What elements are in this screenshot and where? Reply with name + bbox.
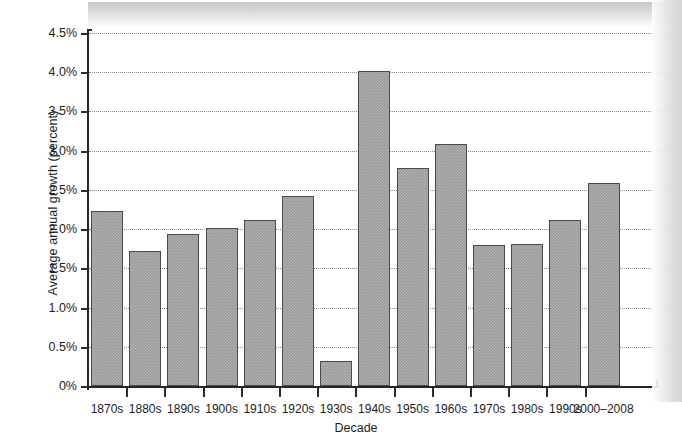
x-axis-tick-label: 1920s	[282, 402, 315, 416]
bar	[511, 244, 543, 386]
bar	[473, 245, 505, 386]
x-axis-tick	[432, 388, 434, 397]
x-axis-tick-label: 2000–2008	[574, 402, 634, 416]
y-axis-tick-label: 0.5%	[49, 340, 78, 354]
bar	[397, 168, 429, 386]
x-axis-tick	[126, 388, 128, 397]
x-axis-tick-label: 1870s	[91, 402, 124, 416]
y-axis-tick-label: 2.0%	[49, 222, 78, 236]
y-axis-tick-label: 4.5%	[49, 26, 78, 40]
x-axis-tick	[355, 388, 357, 397]
x-axis-tick-label: 1900s	[205, 402, 238, 416]
x-axis-tick	[164, 388, 166, 397]
bar	[358, 71, 390, 386]
scan-shadow-right	[652, 0, 682, 402]
bar-series	[87, 33, 655, 386]
y-axis-tick	[81, 386, 87, 388]
bar	[588, 183, 620, 386]
x-axis-tick	[203, 388, 205, 397]
x-axis-tick-label: 1970s	[473, 402, 506, 416]
bar	[129, 251, 161, 386]
x-axis-tick	[508, 388, 510, 397]
bar	[282, 196, 314, 386]
x-axis-tick-label: 1980s	[511, 402, 544, 416]
chart-figure: Average annual growth (percent) 0%0.5%1.…	[0, 0, 682, 446]
x-axis-tick	[241, 388, 243, 397]
bar	[206, 228, 238, 386]
x-axis-tick-label: 1880s	[129, 402, 162, 416]
y-axis-top-cap	[87, 29, 92, 31]
x-axis-tick-label: 1890s	[167, 402, 200, 416]
x-axis-tick-label: 1940s	[358, 402, 391, 416]
bar	[167, 234, 199, 386]
x-axis-tick	[317, 388, 319, 397]
x-axis-tick-label: 1960s	[434, 402, 467, 416]
y-axis-tick-label: 1.0%	[49, 301, 78, 315]
x-axis-right-cap	[656, 380, 658, 388]
x-axis-line	[83, 386, 659, 388]
x-axis-tick	[279, 388, 281, 397]
scan-shadow-top	[88, 2, 668, 28]
bar	[91, 211, 123, 386]
y-axis-tick-label: 2.5%	[49, 183, 78, 197]
x-axis-tick	[470, 388, 472, 397]
x-axis-tick	[585, 388, 587, 397]
x-axis-title: Decade	[0, 421, 682, 435]
x-axis-tick-label: 1930s	[320, 402, 353, 416]
x-axis-tick-label: 1910s	[243, 402, 276, 416]
y-axis-tick-label: 4.0%	[49, 65, 78, 79]
plot-area: 0%0.5%1.0%1.5%2.0%2.5%3.0%3.5%4.0%4.5% 1…	[87, 33, 655, 386]
x-axis-tick-label: 1950s	[396, 402, 429, 416]
bar	[320, 361, 352, 386]
y-axis-tick-label: 0%	[59, 379, 77, 393]
bar	[549, 220, 581, 386]
bar	[244, 220, 276, 386]
bar	[435, 144, 467, 386]
y-axis-tick-label: 3.0%	[49, 144, 78, 158]
y-axis-tick-label: 1.5%	[49, 261, 78, 275]
x-axis-tick	[546, 388, 548, 397]
y-axis-tick-label: 3.5%	[49, 104, 78, 118]
x-axis-tick	[394, 388, 396, 397]
